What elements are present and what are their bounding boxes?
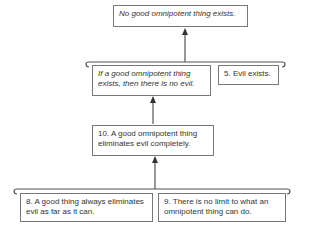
premise-10-box: 10. A good omnipotent thing eliminates e…	[92, 125, 214, 156]
conclusion-box: No good omnipotent thing exists.	[113, 5, 248, 27]
premise-8-box: 8. A good thing always eliminates evil a…	[20, 193, 153, 222]
premise-9-box: 9. There is no limit to what an omnipote…	[158, 193, 286, 222]
intermediate-conclusion-box: If a good omnipotent thing exists, then …	[92, 65, 211, 96]
premise-5-box: 5. Evil exists.	[218, 65, 279, 85]
